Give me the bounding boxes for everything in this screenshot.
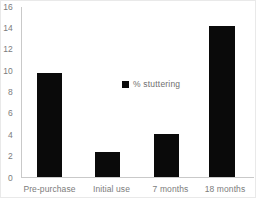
y-axis-tick-label: 8 [0,88,13,97]
y-axis-tick-label: 10 [0,67,13,76]
bar-chart-figure: 0246810121416 % stuttering Pre-purchase … [0,0,256,198]
y-axis-tick-label: 12 [0,45,13,54]
y-axis-tick-label: 4 [0,131,13,140]
y-axis-tick-label: 2 [0,152,13,161]
bar-pre-purchase[interactable] [37,73,62,177]
bar-slot [154,7,179,177]
plot-area: % stuttering [21,7,254,178]
bar-slot [209,7,235,177]
x-axis-tick-label-initial-use: Initial use [79,184,144,194]
x-axis-tick-label-18-months: 18 months [194,184,256,194]
y-axis-tick-label: 0 [0,174,13,183]
bar-initial-use[interactable] [95,152,120,177]
y-axis-tick-label: 14 [0,24,13,33]
legend-square-marker-icon [122,81,129,88]
bar-18-months[interactable] [209,26,235,177]
x-axis-tick-label-pre-purchase: Pre-purchase [12,184,87,194]
bar-slot [95,7,120,177]
legend: % stuttering [122,80,180,89]
legend-entry-label: % stuttering [133,80,180,89]
bar-7-months[interactable] [154,134,179,177]
bar-slot [37,7,62,177]
y-axis-tick-label: 6 [0,109,13,118]
y-axis-tick-label: 16 [0,3,13,12]
